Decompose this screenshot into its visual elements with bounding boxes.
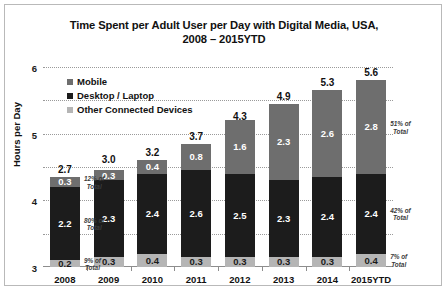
y-axis-label: Hours per Day [11,102,22,167]
y-axis-tick-label: 4 [32,196,37,207]
bar-segment[interactable]: 2.3 [269,180,299,257]
bar-total-label: 3.7 [189,131,203,142]
bar-total-label: 5.6 [364,67,378,78]
x-axis-tick-label: 2008 [54,274,75,285]
legend-item-label: Mobile [77,76,107,87]
segment-share-annotation: 51% ofTotal [390,120,411,135]
bar-segment[interactable]: 2.8 [356,80,386,173]
x-axis-tickmark [218,267,219,271]
chart-title-line-1: Time Spent per Adult User per Day with D… [5,18,443,32]
x-axis-tick-label: 2012 [229,274,250,285]
bar-total-label: 3.2 [145,147,159,158]
bar-stack[interactable]: 0.42.40.43.22010 [137,160,167,267]
bar-segment[interactable]: 2.6 [181,170,211,257]
x-axis-tickmark [306,267,307,271]
bar-total-label: 4.9 [277,91,291,102]
bar-stack[interactable]: 2.32.30.34.92013 [269,104,299,267]
legend-item-label: Other Connected Devices [77,104,193,115]
x-axis-tickmark [131,267,132,271]
x-axis-tickmark [262,267,263,271]
bar-segment[interactable]: 0.3 [181,257,211,267]
bar-segment[interactable]: 0.4 [137,160,167,173]
annotation-line-2: Total [390,128,411,136]
segment-share-annotation: 12% ofTotal [84,175,105,190]
bar-segment[interactable]: 1.6 [225,120,255,173]
annotation-line-1: 42% of [390,207,411,215]
bar-segment[interactable]: 2.2 [50,187,80,260]
bar-segment[interactable]: 2.4 [137,174,167,254]
x-axis-tickmark [174,267,175,271]
annotation-line-1: 80% of [84,217,105,225]
chart-legend: MobileDesktop / LaptopOther Connected De… [67,76,193,115]
annotation-line-2: Total [84,264,101,272]
bar-stack[interactable]: 2.82.40.45.62015YTD [356,80,386,267]
x-axis-tickmark [349,267,350,271]
legend-swatch-icon [67,107,73,113]
legend-swatch-icon [67,93,73,99]
bar-total-label: 3.0 [102,154,116,165]
bar-segment[interactable]: 0.8 [181,144,211,171]
annotation-line-1: 7% of [390,253,407,261]
chart-title-line-2: 2008 – 2015YTD [5,32,443,46]
legend-item-label: Desktop / Laptop [77,90,154,101]
bar-segment[interactable]: 0.4 [137,254,167,267]
chart-title: Time Spent per Adult User per Day with D… [5,18,443,46]
annotation-line-1: 12% of [84,175,105,183]
legend-item[interactable]: Mobile [67,76,193,87]
bar-stack[interactable]: 2.62.40.35.32014 [312,90,342,267]
segment-share-annotation: 7% ofTotal [390,253,407,268]
bar-segment[interactable]: 2.5 [225,174,255,257]
segment-share-annotation: 9% ofTotal [84,257,101,272]
segment-share-annotation: 42% ofTotal [390,207,411,222]
bar-segment[interactable]: 0.4 [356,254,386,267]
annotation-line-2: Total [84,224,105,232]
annotation-line-2: Total [84,183,105,191]
bar-segment[interactable]: 0.3 [225,257,255,267]
chart-container: Time Spent per Adult User per Day with D… [4,4,442,286]
annotation-line-1: 51% of [390,120,411,128]
annotation-line-2: Total [390,261,407,269]
bar-total-label: 2.7 [58,164,72,175]
bar-stack[interactable]: 0.32.20.22.72008 [50,177,80,267]
bar-stack[interactable]: 0.82.60.33.72011 [181,144,211,267]
x-axis-tick-label: 2015YTD [351,274,391,285]
x-axis-tick-label: 2009 [98,274,119,285]
bar-segment[interactable]: 2.3 [269,104,299,181]
y-axis-tick-label: 5 [32,129,37,140]
legend-swatch-icon [67,79,73,85]
gridline: 6 [43,67,393,68]
x-axis-tick-label: 2010 [142,274,163,285]
annotation-line-2: Total [390,214,411,222]
bar-segment[interactable]: 0.3 [269,257,299,267]
bar-segment[interactable]: 0.2 [50,260,80,267]
bar-total-label: 5.3 [320,77,334,88]
legend-item[interactable]: Other Connected Devices [67,104,193,115]
bar-total-label: 4.3 [233,111,247,122]
bar-segment[interactable]: 0.3 [50,177,80,187]
bar-segment[interactable]: 2.4 [356,174,386,254]
x-axis-tick-label: 2014 [317,274,338,285]
annotation-line-1: 9% of [84,257,101,265]
segment-share-annotation: 80% ofTotal [84,217,105,232]
y-axis-tick-label: 3 [32,263,37,274]
x-axis-tick-label: 2011 [186,274,207,285]
bar-segment[interactable]: 0.3 [312,257,342,267]
legend-item[interactable]: Desktop / Laptop [67,90,193,101]
y-axis-tick-label: 6 [32,63,37,74]
x-axis-tick-label: 2013 [273,274,294,285]
bar-segment[interactable]: 2.4 [312,177,342,257]
bar-stack[interactable]: 1.62.50.34.32012 [225,120,255,267]
bar-segment[interactable]: 2.6 [312,90,342,177]
